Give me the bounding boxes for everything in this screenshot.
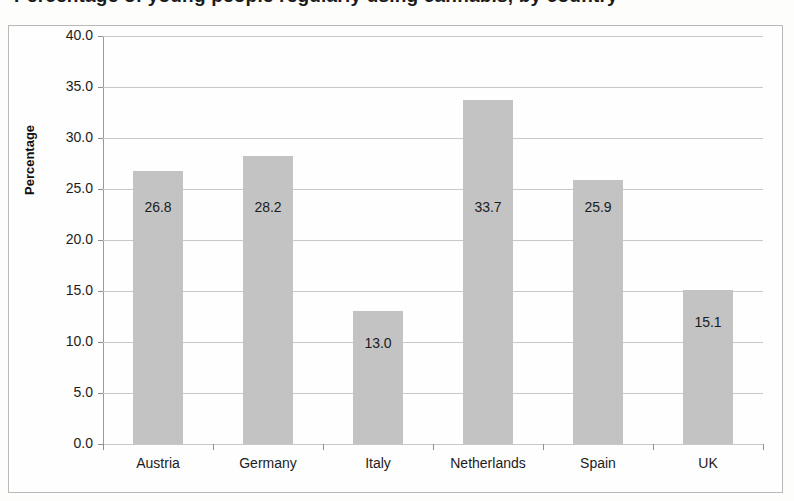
bar-value-label: 13.0 <box>353 335 403 351</box>
y-axis-tick-label: 30.0 <box>35 129 93 145</box>
gridline <box>103 87 763 88</box>
y-axis-tick-label: 10.0 <box>35 333 93 349</box>
y-axis-tick-label: 0.0 <box>35 435 93 451</box>
x-axis-tick-mark <box>763 444 764 450</box>
gridline <box>103 291 763 292</box>
bar[interactable] <box>353 311 403 444</box>
bar-value-label: 26.8 <box>133 199 183 215</box>
bar[interactable] <box>573 180 623 444</box>
x-axis-tick-mark <box>543 444 544 450</box>
plot-area: 26.828.213.033.725.915.1 <box>103 36 763 444</box>
x-axis-tick-mark <box>433 444 434 450</box>
x-axis-tick-mark <box>213 444 214 450</box>
y-axis-tick-label: 5.0 <box>35 384 93 400</box>
y-axis-tick-label: 40.0 <box>35 27 93 43</box>
gridline <box>103 393 763 394</box>
bar[interactable] <box>463 100 513 444</box>
x-axis-tick-mark <box>653 444 654 450</box>
x-axis-category-label: UK <box>638 455 778 471</box>
gridline <box>103 189 763 190</box>
bar-value-label: 28.2 <box>243 199 293 215</box>
y-axis-tick-label: 20.0 <box>35 231 93 247</box>
chart-title: Percentage of young people regularly usi… <box>14 0 618 7</box>
x-axis-tick-mark <box>103 444 104 450</box>
gridline <box>103 240 763 241</box>
x-axis-tick-mark <box>323 444 324 450</box>
bar-value-label: 15.1 <box>683 314 733 330</box>
y-axis-tick-label: 15.0 <box>35 282 93 298</box>
gridline <box>103 342 763 343</box>
y-axis-tick-label: 35.0 <box>35 78 93 94</box>
bar-value-label: 25.9 <box>573 199 623 215</box>
gridline <box>103 138 763 139</box>
y-axis-tick-label: 25.0 <box>35 180 93 196</box>
chart-title-strip: Percentage of young people regularly usi… <box>0 0 794 14</box>
bar-value-label: 33.7 <box>463 199 513 215</box>
gridline <box>103 36 763 37</box>
